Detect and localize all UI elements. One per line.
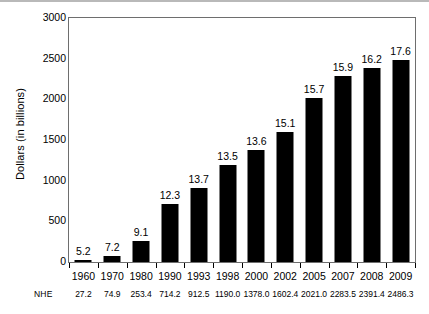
- x-axis-tick-mark: [357, 263, 358, 268]
- bar: [277, 132, 294, 262]
- bar-value-label: 17.6: [390, 45, 410, 57]
- nhe-row-label: NHE: [34, 289, 53, 299]
- bar-slot: 16.2: [357, 18, 386, 262]
- bar: [104, 256, 121, 262]
- bar-slot: 7.2: [98, 18, 127, 262]
- bar-value-label: 5.2: [76, 245, 91, 257]
- y-axis-tick-label: 1500: [43, 133, 66, 145]
- y-axis-tick-label: 1000: [43, 174, 66, 186]
- bar-slot: 15.1: [271, 18, 300, 262]
- x-axis-category-label: 2007: [331, 270, 354, 282]
- x-axis-category-label: 1990: [158, 270, 181, 282]
- nhe-value: 27.2: [75, 289, 92, 299]
- x-axis-category-label: 1993: [187, 270, 210, 282]
- nhe-value: 1602.4: [272, 289, 298, 299]
- bars-container: 5.27.29.112.313.713.513.615.115.715.916.…: [69, 18, 415, 262]
- nhe-value: 912.5: [188, 289, 209, 299]
- bar: [190, 188, 207, 262]
- x-axis-tick-mark: [300, 263, 301, 268]
- x-axis-category-label: 2008: [360, 270, 383, 282]
- bar-value-label: 15.1: [275, 117, 295, 129]
- bar-value-label: 13.6: [246, 135, 266, 147]
- bar-slot: 13.5: [213, 18, 242, 262]
- bar-value-label: 15.9: [333, 61, 353, 73]
- nhe-value: 1378.0: [243, 289, 269, 299]
- y-axis-title: Dollars (in billions): [14, 44, 26, 224]
- x-axis-category-label: 2005: [302, 270, 325, 282]
- x-axis-tick-mark: [127, 263, 128, 268]
- y-axis-tick-label: 500: [48, 214, 66, 226]
- x-axis-category-label: 2009: [389, 270, 412, 282]
- bar: [75, 260, 92, 262]
- bar-chart-figure: Dollars (in billions) 050010001500200025…: [0, 0, 429, 314]
- bar-slot: 17.6: [386, 18, 415, 262]
- x-axis-tick-mark: [98, 263, 99, 268]
- x-axis-category-label: 1960: [72, 270, 95, 282]
- bar-slot: 13.7: [184, 18, 213, 262]
- nhe-value: 253.4: [130, 289, 151, 299]
- bar: [248, 150, 265, 262]
- bar-slot: 13.6: [242, 18, 271, 262]
- bar: [334, 76, 351, 262]
- y-axis-tick-label: 3000: [43, 11, 66, 23]
- x-axis-category-label: 1998: [216, 270, 239, 282]
- bar-value-label: 15.7: [304, 83, 324, 95]
- nhe-value: 2391.4: [359, 289, 385, 299]
- x-axis-tick-mark: [329, 263, 330, 268]
- x-axis-tick-mark: [415, 263, 416, 268]
- x-axis-tick-mark: [213, 263, 214, 268]
- y-axis-tick-label: 2000: [43, 92, 66, 104]
- nhe-value: 2283.5: [330, 289, 356, 299]
- nhe-value: 74.9: [104, 289, 121, 299]
- bar-value-label: 13.7: [189, 173, 209, 185]
- y-axis-tick-label: 0: [60, 255, 66, 267]
- bar-slot: 15.7: [300, 18, 329, 262]
- bar-value-label: 9.1: [134, 226, 149, 238]
- x-axis-category-label: 2000: [245, 270, 268, 282]
- nhe-value: 2486.3: [388, 289, 414, 299]
- x-axis-tick-mark: [69, 263, 70, 268]
- bar-slot: 15.9: [329, 18, 358, 262]
- bar-value-label: 7.2: [105, 241, 120, 253]
- bar: [133, 241, 150, 262]
- bar-value-label: 13.5: [217, 150, 237, 162]
- x-axis-tick-mark: [242, 263, 243, 268]
- x-axis-tick-mark: [386, 263, 387, 268]
- x-axis-tick-mark: [271, 263, 272, 268]
- x-axis-tick-mark: [184, 263, 185, 268]
- nhe-value: 1190.0: [215, 289, 240, 299]
- bar-slot: 12.3: [156, 18, 185, 262]
- x-axis-category-label: 1970: [101, 270, 124, 282]
- nhe-value: 2021.0: [301, 289, 327, 299]
- bar: [306, 98, 323, 262]
- bar: [219, 165, 236, 262]
- y-axis-tick-label: 2500: [43, 52, 66, 64]
- bar-slot: 9.1: [127, 18, 156, 262]
- bar-slot: 5.2: [69, 18, 98, 262]
- nhe-value: 714.2: [159, 289, 180, 299]
- bar-value-label: 16.2: [362, 53, 382, 65]
- x-axis-category-label: 1980: [129, 270, 152, 282]
- bar: [392, 60, 409, 262]
- bar-value-label: 12.3: [160, 189, 180, 201]
- x-axis-category-label: 2002: [274, 270, 297, 282]
- x-axis-tick-mark: [156, 263, 157, 268]
- bar: [363, 68, 380, 263]
- bar: [161, 204, 178, 262]
